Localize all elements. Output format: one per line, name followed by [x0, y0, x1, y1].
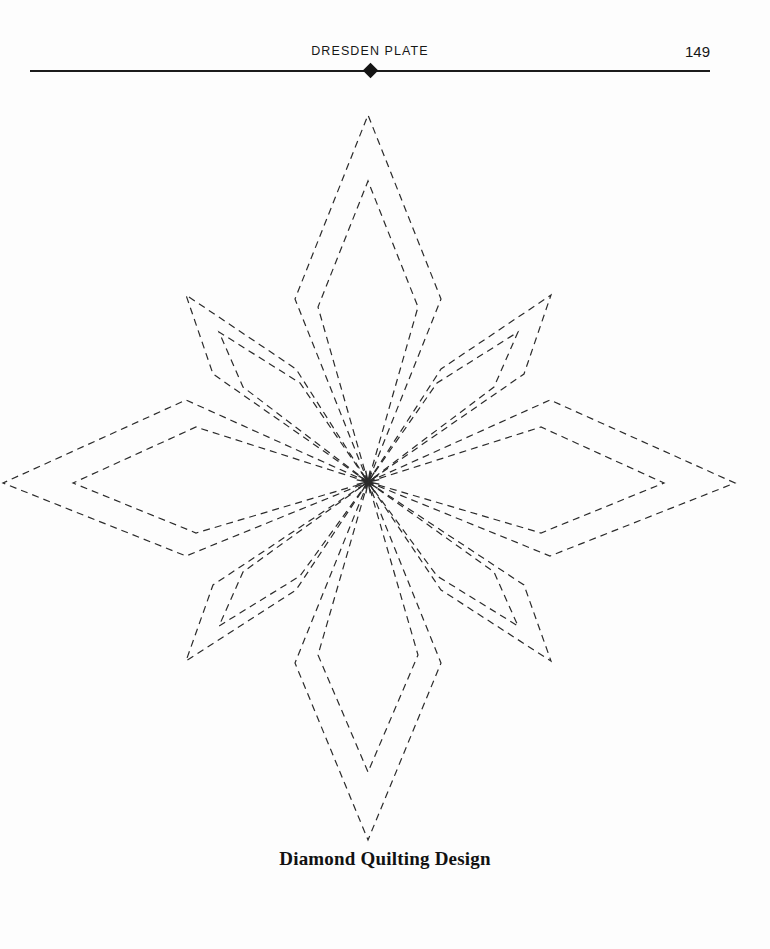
arm-down-outer-diamond — [295, 482, 441, 840]
arm-left-outer-diamond — [3, 400, 368, 556]
arm-right-outer-diamond — [368, 400, 735, 556]
arm-down-inner-diamond — [318, 482, 418, 772]
book-page: DRESDEN PLATE 149 Diamond Quilting Desig… — [0, 0, 770, 949]
arm-upper-right-outer-diamond — [368, 295, 551, 482]
figure-caption: Diamond Quilting Design — [0, 848, 770, 870]
arm-left-inner-diamond — [73, 427, 368, 533]
arm-upper-left-inner-diamond — [219, 332, 368, 482]
arm-right-inner-diamond — [368, 427, 664, 533]
arm-lower-right-inner-diamond — [368, 482, 518, 626]
quilting-pattern-illustration — [0, 0, 770, 949]
arm-up-outer-diamond — [295, 115, 441, 482]
arm-lower-left-inner-diamond — [219, 482, 368, 626]
arm-upper-right-inner-diamond — [368, 332, 518, 482]
star-pattern-svg — [0, 0, 770, 949]
arm-up-inner-diamond — [318, 181, 418, 482]
